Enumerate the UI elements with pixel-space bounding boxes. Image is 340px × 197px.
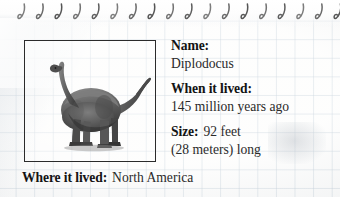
fact-name: Name: Diplodocus <box>171 36 337 72</box>
fact-name-value-line: Diplodocus <box>171 54 337 72</box>
fact-when-value: 145 million years ago <box>171 99 289 114</box>
fact-size-value: 92 feet <box>203 124 240 139</box>
dinosaur-photo-frame <box>24 40 156 162</box>
fact-where-value: North America <box>112 170 193 185</box>
diplodocus-icon <box>28 47 154 159</box>
dinosaur-image-holder <box>25 41 155 161</box>
fact-name-label-line: Name: <box>171 36 337 54</box>
fact-size-first-line: Size:92 feet <box>171 122 337 140</box>
fact-when-label-line: When it lived: <box>171 79 337 97</box>
fact-where-label: Where it lived: <box>22 170 107 185</box>
fact-name-value: Diplodocus <box>171 56 234 71</box>
fact-when-it-lived: When it lived: 145 million years ago <box>171 79 337 115</box>
fact-list: Name: Diplodocus When it lived: 145 mill… <box>171 36 337 158</box>
fact-size-value-line2: (28 meters) long <box>171 142 261 157</box>
fact-size-second-line: (28 meters) long <box>171 140 337 158</box>
fact-size: Size:92 feet (28 meters) long <box>171 122 337 158</box>
fact-when-label: When it lived: <box>171 81 252 96</box>
fact-where-it-lived: Where it lived:North America <box>22 168 193 186</box>
fact-size-label: Size: <box>171 124 198 139</box>
fact-name-label: Name: <box>171 38 209 53</box>
dinosaur-fact-card: Name: Diplodocus When it lived: 145 mill… <box>0 0 340 197</box>
fact-when-value-line: 145 million years ago <box>171 97 337 115</box>
